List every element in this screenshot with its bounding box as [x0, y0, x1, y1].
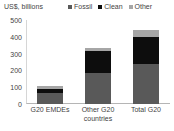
x-tick-label: G20 EMDEs — [26, 106, 74, 123]
y-tick-label: 300 — [10, 50, 22, 57]
stacked-bar[interactable] — [133, 30, 159, 104]
x-tick-label: Total G20 — [122, 106, 170, 123]
y-tick-label: 500 — [10, 17, 22, 24]
chart-legend: Fossil Clean Other — [68, 2, 152, 11]
stacked-bar[interactable] — [85, 48, 111, 104]
legend-label-clean: Clean — [104, 2, 122, 11]
bar-segment-other[interactable] — [133, 30, 159, 37]
bar-column — [26, 20, 74, 104]
y-tick-label: 0 — [18, 101, 22, 108]
x-tick-label-line: Total G20 — [122, 106, 170, 115]
legend-item-other[interactable]: Other — [129, 2, 153, 11]
y-axis-title: US$, billions — [4, 2, 43, 11]
bar-group — [26, 20, 170, 104]
legend-item-clean[interactable]: Clean — [98, 2, 122, 11]
x-tick-label: Other G20countries — [74, 106, 122, 123]
bar-column — [122, 20, 170, 104]
bar-segment-clean[interactable] — [85, 51, 111, 73]
bar-segment-clean[interactable] — [133, 37, 159, 64]
x-tick-label-line: countries — [74, 115, 122, 124]
x-tick-label-line: Other G20 — [74, 106, 122, 115]
y-tick-label: 400 — [10, 33, 22, 40]
y-tick-label: 200 — [10, 67, 22, 74]
bar-segment-fossil[interactable] — [85, 73, 111, 104]
legend-swatch-other — [129, 5, 133, 9]
bar-segment-fossil[interactable] — [133, 64, 159, 104]
bar-segment-fossil[interactable] — [37, 93, 63, 104]
legend-swatch-clean — [98, 5, 102, 9]
stacked-bar[interactable] — [37, 86, 63, 104]
legend-label-fossil: Fossil — [74, 2, 92, 11]
legend-label-other: Other — [135, 2, 153, 11]
bar-column — [74, 20, 122, 104]
legend-swatch-fossil — [68, 5, 72, 9]
plot-area: 5004003002001000 — [26, 20, 170, 104]
legend-item-fossil[interactable]: Fossil — [68, 2, 92, 11]
x-axis-labels: G20 EMDEsOther G20countriesTotal G20 — [26, 106, 170, 123]
y-tick-label: 100 — [10, 84, 22, 91]
x-tick-label-line: G20 EMDEs — [26, 106, 74, 115]
stacked-bar-chart: US$, billions Fossil Clean Other 5004003… — [0, 0, 174, 131]
